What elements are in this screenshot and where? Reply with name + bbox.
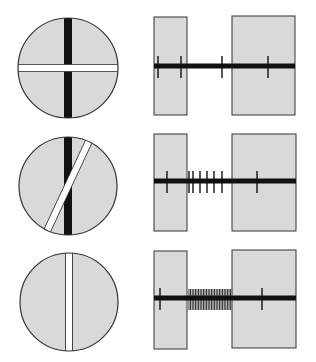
stimulus-bar — [66, 248, 73, 356]
receptive-field-vertical — [20, 248, 118, 356]
receptive-field-oblique — [19, 135, 117, 237]
receptive-field-horizontal — [13, 16, 123, 120]
recording-horizontal — [154, 16, 295, 115]
baseline-trace — [154, 64, 295, 69]
row-oblique — [19, 134, 296, 237]
baseline-trace — [154, 179, 296, 184]
row-vertical — [20, 248, 296, 356]
row-horizontal — [13, 16, 295, 120]
recording-oblique — [154, 134, 296, 231]
baseline-trace — [154, 296, 296, 301]
recording-vertical — [154, 250, 296, 349]
stimulus-bar — [13, 65, 123, 72]
orientation-figure — [0, 0, 316, 362]
